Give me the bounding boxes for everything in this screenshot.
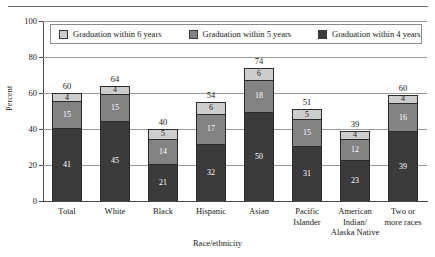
bar-segment[interactable]: 39: [389, 131, 417, 201]
bar-segment-value: 32: [207, 169, 215, 177]
bar-group[interactable]: 4154564: [91, 21, 139, 201]
legend-item[interactable]: Graduation within 4 years: [318, 29, 421, 39]
x-axis-tick-label: Asian: [249, 206, 269, 217]
bar-segment[interactable]: 4: [53, 94, 81, 101]
bar-segment-value: 17: [207, 125, 215, 133]
y-axis-tick-label: 60: [29, 88, 38, 98]
x-axis-tick-label: Hispanic: [196, 206, 226, 217]
bar-total-label: 39: [351, 119, 360, 129]
y-axis-title: Percent: [5, 86, 14, 111]
bar-segment-value: 5: [305, 111, 309, 119]
figure: Percent 020406080100 4154160415456451421…: [0, 0, 435, 257]
x-axis-tick-label: White: [105, 206, 126, 217]
bar-total-label: 74: [255, 56, 264, 66]
bar-group[interactable]: 6185074: [235, 21, 283, 201]
bar-segment-value: 4: [401, 96, 405, 103]
x-axis-tick-label-line: Alaska Native: [331, 227, 379, 238]
bar-segment-value: 5: [161, 130, 165, 138]
x-axis-tick-label-line: White: [105, 206, 126, 217]
bar-segment[interactable]: 4: [389, 96, 417, 103]
legend-item[interactable]: Graduation within 5 years: [189, 29, 292, 39]
bar-segment[interactable]: 4: [101, 87, 129, 94]
y-axis-tick-label: 80: [29, 52, 38, 62]
stacked-bar[interactable]: 41223: [340, 131, 370, 201]
bar-segment-value: 21: [159, 179, 167, 187]
bar-total-label: 60: [63, 81, 72, 91]
legend-label: Graduation within 6 years: [73, 29, 162, 39]
y-axis-tick-label: 40: [29, 124, 38, 134]
x-axis-tick-label: Black: [153, 206, 173, 217]
bar-segment-value: 23: [351, 177, 359, 185]
x-axis-tick-label-line: Two or: [384, 206, 421, 217]
x-axis-title: Race/ethnicity: [0, 238, 435, 248]
x-axis-tick-label-line: Asian: [249, 206, 269, 217]
x-axis-tick-label-line: Total: [58, 206, 75, 217]
bar-group[interactable]: 4122339: [331, 21, 379, 201]
bar-segment[interactable]: 6: [197, 103, 225, 114]
legend-swatch-icon: [318, 30, 327, 39]
bar-segment-value: 16: [399, 114, 407, 122]
x-axis-tick-label-line: Hispanic: [196, 206, 226, 217]
bar-segment-value: 50: [255, 153, 263, 161]
bar-segment[interactable]: 15: [53, 101, 81, 128]
bar-total-label: 51: [303, 97, 312, 107]
bar-segment[interactable]: 15: [293, 119, 321, 146]
chart-legend: Graduation within 6 yearsGraduation with…: [50, 24, 422, 44]
bar-segment[interactable]: 32: [197, 144, 225, 201]
x-axis-tick-label-line: Black: [153, 206, 173, 217]
x-axis-tick-label-line: American: [331, 206, 379, 217]
y-axis-tick: [39, 201, 43, 202]
x-axis-line: [43, 201, 428, 202]
bar-segment[interactable]: 23: [341, 160, 369, 201]
bar-segment-value: 39: [399, 163, 407, 171]
bar-total-label: 54: [207, 90, 216, 100]
bar-segment[interactable]: 18: [245, 80, 273, 112]
legend-swatch-icon: [189, 30, 198, 39]
stacked-bar[interactable]: 61732: [196, 102, 226, 201]
stacked-bar[interactable]: 61850: [244, 68, 274, 201]
bar-group[interactable]: 6173254: [187, 21, 235, 201]
bar-total-label: 40: [159, 117, 168, 127]
bar-segment[interactable]: 4: [341, 132, 369, 139]
legend-label: Graduation within 5 years: [203, 29, 292, 39]
bar-segment-value: 41: [63, 161, 71, 169]
bar-group[interactable]: 5153151: [283, 21, 331, 201]
bar-total-label: 64: [111, 74, 120, 84]
bar-segment[interactable]: 41: [53, 128, 81, 201]
bar-segment-value: 6: [209, 104, 213, 112]
bar-segment[interactable]: 31: [293, 146, 321, 201]
bar-segment[interactable]: 6: [245, 69, 273, 80]
bar-segment-value: 31: [303, 170, 311, 178]
legend-item[interactable]: Graduation within 6 years: [59, 29, 162, 39]
bar-segment[interactable]: 17: [197, 114, 225, 144]
stacked-bar[interactable]: 51531: [292, 109, 322, 201]
bar-segment-value: 4: [113, 87, 117, 94]
bar-segment-value: 45: [111, 157, 119, 165]
stacked-bar[interactable]: 51421: [148, 129, 178, 201]
bar-segment[interactable]: 50: [245, 112, 273, 201]
bar-segment-value: 15: [303, 129, 311, 137]
bar-segment[interactable]: 21: [149, 164, 177, 201]
x-axis-tick-label-line: Indian/: [331, 217, 379, 228]
bar-group[interactable]: 5142140: [139, 21, 187, 201]
legend-label: Graduation within 4 years: [332, 29, 421, 39]
bar-segment[interactable]: 15: [101, 94, 129, 121]
bar-segment-value: 4: [353, 132, 357, 139]
bar-segment[interactable]: 5: [149, 130, 177, 139]
bar-segment[interactable]: 14: [149, 139, 177, 164]
top-divider: [8, 6, 428, 7]
x-axis-tick-label-line: Islander: [293, 217, 320, 228]
bar-segment[interactable]: 45: [101, 121, 129, 201]
stacked-bar[interactable]: 41541: [52, 93, 82, 201]
bar-segment[interactable]: 12: [341, 139, 369, 160]
bar-segment-value: 15: [63, 111, 71, 119]
bar-segment[interactable]: 16: [389, 103, 417, 132]
bar-segment-value: 12: [351, 146, 359, 154]
bar-group[interactable]: 4154160: [43, 21, 91, 201]
bar-segment-value: 14: [159, 148, 167, 156]
x-axis-tick-label: Total: [58, 206, 75, 217]
bar-group[interactable]: 4163960: [379, 21, 427, 201]
bar-segment[interactable]: 5: [293, 110, 321, 119]
stacked-bar[interactable]: 41639: [388, 95, 418, 201]
stacked-bar[interactable]: 41545: [100, 86, 130, 201]
